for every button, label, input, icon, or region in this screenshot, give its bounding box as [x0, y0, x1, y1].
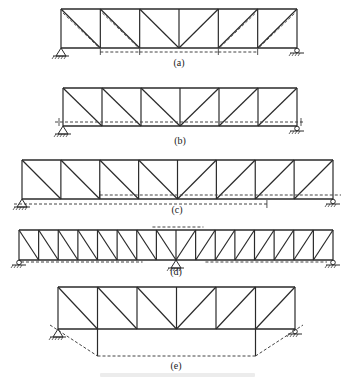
- roller-support-icon: [289, 48, 304, 56]
- roller-support-icon: [325, 260, 340, 268]
- truss-c: [13, 160, 341, 210]
- label-b: (b): [174, 135, 186, 146]
- figure-caption: [100, 373, 255, 377]
- truss-e: [49, 287, 303, 356]
- pin-support-icon: [49, 329, 66, 340]
- pin-support-icon: [52, 48, 69, 59]
- roller-support-icon: [11, 260, 26, 268]
- roller-support-icon: [325, 199, 340, 207]
- truss-b: [54, 88, 305, 137]
- label-c: (c): [171, 204, 182, 215]
- roller-support-icon: [289, 126, 304, 134]
- label-d: (d): [170, 266, 182, 277]
- label-e: (e): [170, 360, 181, 371]
- truss-d: [11, 227, 340, 271]
- truss-a: [52, 9, 304, 59]
- pin-support-icon: [54, 126, 71, 137]
- label-a: (a): [173, 57, 184, 68]
